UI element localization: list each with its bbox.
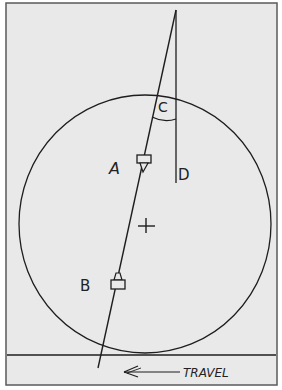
label-a: A [108, 159, 120, 178]
label-b: B [80, 277, 90, 295]
label-c: C [158, 99, 168, 115]
label-d-group: D [178, 166, 190, 184]
paper-background [6, 3, 277, 385]
diagram-frame: C A D B TRAVEL [0, 0, 282, 390]
label-travel: TRAVEL [183, 366, 229, 380]
wheel-angle-diagram: C A D B TRAVEL [0, 0, 282, 390]
label-d: D [178, 166, 190, 184]
